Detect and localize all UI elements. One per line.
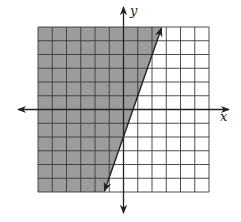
x-axis-label: x — [220, 109, 228, 124]
inequality-graph: y x — [0, 0, 241, 222]
y-axis-label: y — [129, 3, 138, 18]
